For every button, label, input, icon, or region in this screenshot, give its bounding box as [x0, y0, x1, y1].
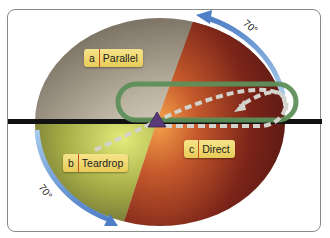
label-letter: c — [184, 140, 199, 158]
label-letter: a — [84, 49, 100, 67]
label-text: Parallel — [100, 49, 143, 67]
label-text: Teardrop — [79, 154, 128, 172]
label-direct: c Direct — [184, 140, 235, 158]
holding-entry-diagram — [0, 0, 330, 238]
label-letter: b — [63, 154, 79, 172]
label-parallel: a Parallel — [84, 49, 143, 67]
label-text: Direct — [199, 140, 234, 158]
label-teardrop: b Teardrop — [63, 154, 128, 172]
